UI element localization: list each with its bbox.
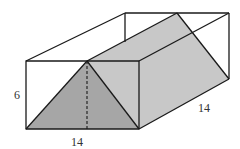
- width-label: 14: [71, 135, 83, 149]
- depth-label: 14: [198, 101, 210, 115]
- prism-diagram: 6 14 14: [0, 0, 240, 149]
- height-label: 6: [14, 88, 20, 102]
